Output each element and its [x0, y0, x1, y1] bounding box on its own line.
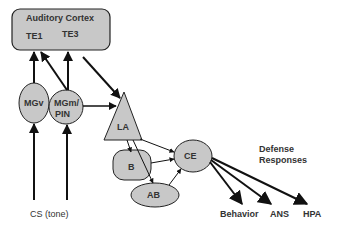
arrow-b-to-ce	[151, 159, 174, 163]
ce-label: CE	[184, 151, 197, 161]
mgm-label-line2: PIN	[55, 109, 70, 119]
output-ans: ANS	[270, 209, 289, 219]
arrow-cortex-to-la	[83, 57, 120, 98]
output-behavior: Behavior	[220, 209, 259, 219]
defense-label-line1: Defense	[259, 144, 294, 154]
mgv-label: MGv	[24, 98, 44, 108]
la-node	[104, 92, 142, 140]
fear-circuit-diagram	[0, 0, 338, 229]
defense-label-line2: Responses	[259, 155, 307, 165]
la-label: LA	[117, 122, 129, 132]
te1-label: TE1	[26, 31, 43, 41]
auditory-cortex-title: Auditory Cortex	[26, 13, 94, 23]
output-hpa: HPA	[303, 209, 321, 219]
te3-label: TE3	[62, 29, 79, 39]
arrow-mgm-to-te1	[41, 52, 67, 90]
arrow-ce-to-behavior	[210, 162, 242, 204]
arrow-ab-to-ce	[169, 169, 181, 185]
cs-tone-label: CS (tone)	[30, 209, 69, 219]
mgm-label-line1: MGm/	[54, 98, 79, 108]
arrow-la-to-ce	[140, 139, 174, 152]
ab-label: AB	[147, 190, 160, 200]
b-label: B	[128, 162, 135, 172]
